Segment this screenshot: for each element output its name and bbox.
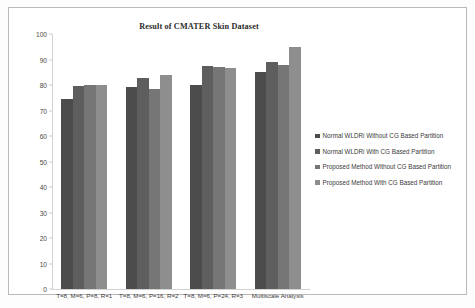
- legend-item-label: Normal WLDRi With CG Based Partition: [323, 148, 435, 156]
- legend-item[interactable]: Proposed Method With CG Based Partition: [315, 179, 465, 187]
- bar: [202, 66, 214, 289]
- bar: [266, 62, 278, 289]
- legend-swatch-icon: [315, 149, 320, 154]
- x-axis-category-label: T=8, M=6, P=16, R=2: [119, 292, 179, 299]
- bar: [149, 89, 161, 289]
- bar: [160, 75, 172, 289]
- legend-item[interactable]: Normal WLDRi Without CG Based Partition: [315, 132, 465, 140]
- chart-frame: Result of CMATER Skin Dataset 1009080706…: [8, 7, 467, 295]
- bar: [73, 86, 85, 289]
- x-axis-category-label: T=8, M=6, P=8, R=1: [56, 292, 112, 299]
- bar-group: [52, 34, 117, 289]
- plot-area: 1009080706050403020100: [52, 34, 310, 289]
- legend-swatch-icon: [315, 165, 320, 170]
- legend-swatch-icon: [315, 134, 320, 139]
- x-axis-category-label: Multiscale Analysis: [252, 292, 304, 299]
- legend-item-label: Proposed Method Without CG Based Partiti…: [323, 163, 451, 171]
- bar: [278, 65, 290, 289]
- bar: [61, 99, 73, 289]
- bar-group: [181, 34, 246, 289]
- bar: [255, 72, 267, 289]
- legend-swatch-icon: [315, 180, 320, 185]
- bar: [213, 67, 225, 289]
- bar: [137, 78, 149, 289]
- chart-title: Result of CMATER Skin Dataset: [69, 22, 329, 31]
- legend-item-label: Proposed Method With CG Based Partition: [323, 179, 443, 187]
- bar: [126, 87, 138, 289]
- bar: [289, 47, 301, 289]
- bar-group: [117, 34, 182, 289]
- chart-page: Result of CMATER Skin Dataset 1009080706…: [0, 0, 475, 308]
- bar-group: [246, 34, 311, 289]
- chart-legend: Normal WLDRi Without CG Based PartitionN…: [315, 132, 465, 194]
- bar: [84, 85, 96, 290]
- legend-item[interactable]: Normal WLDRi With CG Based Partition: [315, 148, 465, 156]
- x-axis-category-label: T=8, M=6, P=24, R=3: [183, 292, 243, 299]
- legend-item-label: Normal WLDRi Without CG Based Partition: [323, 132, 444, 140]
- bar: [190, 85, 202, 289]
- x-axis-line: [52, 289, 310, 290]
- legend-item[interactable]: Proposed Method Without CG Based Partiti…: [315, 163, 465, 171]
- bar: [96, 85, 108, 290]
- bar: [225, 68, 237, 289]
